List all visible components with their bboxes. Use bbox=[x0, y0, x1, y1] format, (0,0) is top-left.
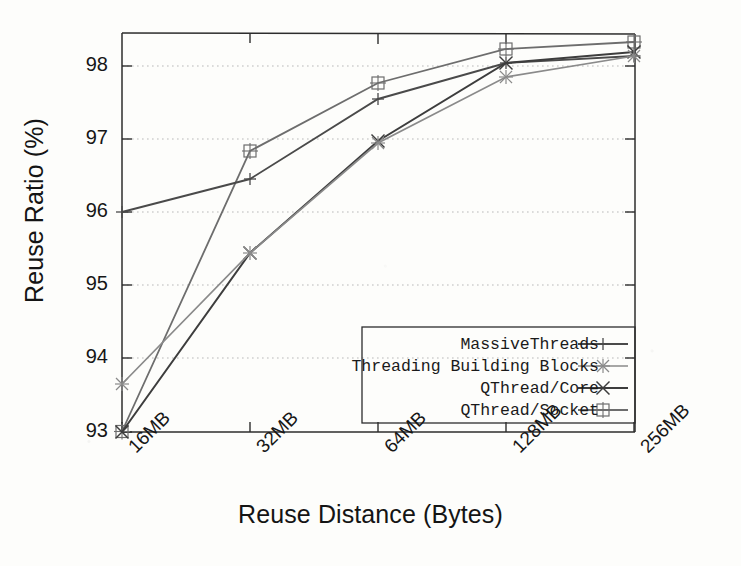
legend-label-qthread-core: QThread/Core bbox=[480, 379, 599, 398]
ytick-label-98: 98 bbox=[62, 53, 108, 76]
ytick-label-93: 93 bbox=[62, 419, 108, 442]
ytick-label-96: 96 bbox=[62, 199, 108, 222]
x-axis-title: Reuse Distance (Bytes) bbox=[0, 500, 741, 529]
legend-label-qthread-socket: QThread/Socket bbox=[460, 401, 599, 420]
chart-figure: 93 94 95 96 97 98 16MB 32MB 64MB 128MB 2… bbox=[0, 0, 741, 566]
ytick-label-94: 94 bbox=[62, 345, 108, 368]
ytick-label-97: 97 bbox=[62, 126, 108, 149]
gridlines bbox=[122, 66, 635, 358]
legend-label-massivethreads: MassiveThreads bbox=[460, 335, 599, 354]
y-axis-title: Reuse Ratio (%) bbox=[20, 81, 49, 341]
legend-label-threading-building-blocks: Threading Building Blocks bbox=[351, 357, 599, 376]
plot-canvas bbox=[0, 0, 741, 566]
ytick-label-95: 95 bbox=[62, 272, 108, 295]
